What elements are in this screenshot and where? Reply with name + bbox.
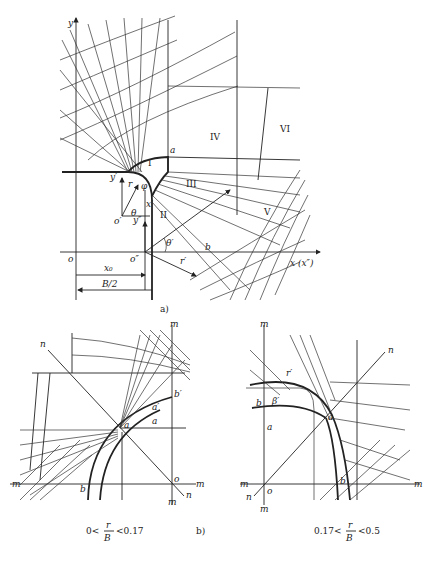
grid-region-v bbox=[190, 170, 310, 300]
region-iv-label: IV bbox=[210, 132, 221, 142]
fan-lines bbox=[60, 18, 160, 172]
point-b-prime-label: b bbox=[256, 398, 262, 408]
svg-text:0.17<: 0.17< bbox=[314, 526, 342, 536]
m-label-bottom: m bbox=[168, 497, 177, 507]
figure-b-left: n m m m m n o a a a′ b′ b bbox=[10, 319, 205, 507]
line-a bbox=[168, 157, 300, 160]
beta-prime-label: β′ bbox=[271, 396, 279, 406]
origin-o-label: o bbox=[267, 486, 273, 496]
point-b-prime-label: b′ bbox=[174, 389, 182, 399]
phi-label: φ bbox=[141, 181, 148, 191]
n-label-bottom: n bbox=[246, 492, 252, 502]
svg-text:B: B bbox=[345, 533, 353, 543]
inner-boundary bbox=[100, 410, 160, 500]
point-a-prime-label: a′ bbox=[152, 402, 159, 412]
origin-o-prime-label: o′ bbox=[114, 216, 121, 226]
m-label-right: m bbox=[196, 479, 205, 489]
y-axis-label: y bbox=[67, 18, 74, 28]
region-ii-label: II bbox=[160, 210, 168, 220]
slip-line-field-figure: y x (x″) o o″ bbox=[0, 0, 436, 565]
x-axis-label: x (x″) bbox=[290, 258, 314, 268]
svg-text:0<: 0< bbox=[86, 526, 99, 536]
y-double-label: y″ bbox=[132, 215, 142, 225]
caption-left: 0< r B <0.17 bbox=[86, 520, 144, 543]
m-label-top: m bbox=[170, 319, 179, 329]
svg-text:<0.17: <0.17 bbox=[116, 526, 144, 536]
origin-o-label: o bbox=[174, 474, 180, 484]
m-label-bottom: m bbox=[260, 504, 269, 514]
r-prime-ray bbox=[145, 190, 230, 252]
caption-b: b) bbox=[196, 526, 205, 536]
point-b-label: b bbox=[80, 484, 86, 494]
point-b-label: b bbox=[340, 476, 346, 486]
r-prime-label: r′ bbox=[286, 368, 292, 378]
figure-b-right: m n m m m n o a a b β′ r′ b bbox=[240, 319, 423, 514]
origin-o-double: o″ bbox=[130, 254, 139, 264]
point-a-label: a bbox=[170, 145, 175, 155]
m-label-left: m bbox=[12, 479, 21, 489]
m-label-right: m bbox=[414, 479, 423, 489]
n-axis bbox=[48, 350, 184, 496]
caption-a: a) bbox=[160, 304, 169, 314]
r-label: r bbox=[128, 179, 133, 189]
arc-lines bbox=[60, 16, 300, 215]
svg-text:r: r bbox=[348, 520, 353, 530]
point-a-label: a bbox=[328, 412, 333, 422]
svg-text:B: B bbox=[103, 533, 111, 543]
x-prime-label: x′ bbox=[146, 199, 153, 209]
region-vi-label: VI bbox=[279, 124, 290, 134]
svg-text:r: r bbox=[106, 520, 111, 530]
origin-o: o bbox=[68, 254, 74, 264]
region-i-label: I bbox=[148, 158, 152, 168]
region-iii-label: III bbox=[186, 179, 197, 189]
y-prime-label: y′ bbox=[109, 172, 117, 182]
r-prime-label: r′ bbox=[180, 256, 186, 266]
region-v-label: V bbox=[263, 207, 271, 217]
m-label-top: m bbox=[260, 319, 269, 329]
half-width-label: B/2 bbox=[101, 279, 118, 289]
n-label-top: n bbox=[388, 345, 394, 355]
caption-right: 0.17< r B <0.5 bbox=[314, 520, 380, 543]
n-label-bottom: n bbox=[186, 490, 192, 500]
point-b-label: b bbox=[205, 242, 211, 252]
point-a-label-2: a bbox=[152, 416, 157, 426]
m-label-left: m bbox=[240, 479, 249, 489]
n-label-top: n bbox=[40, 339, 46, 349]
point-a-label-2: a bbox=[267, 422, 272, 432]
svg-text:<0.5: <0.5 bbox=[358, 526, 380, 536]
figure-a: y x (x″) o o″ bbox=[60, 16, 320, 314]
inner-boundary bbox=[252, 406, 326, 418]
theta-prime-label: θ′ bbox=[166, 238, 173, 248]
x0-label: x₀ bbox=[104, 263, 113, 273]
point-a-label: a bbox=[124, 420, 129, 430]
